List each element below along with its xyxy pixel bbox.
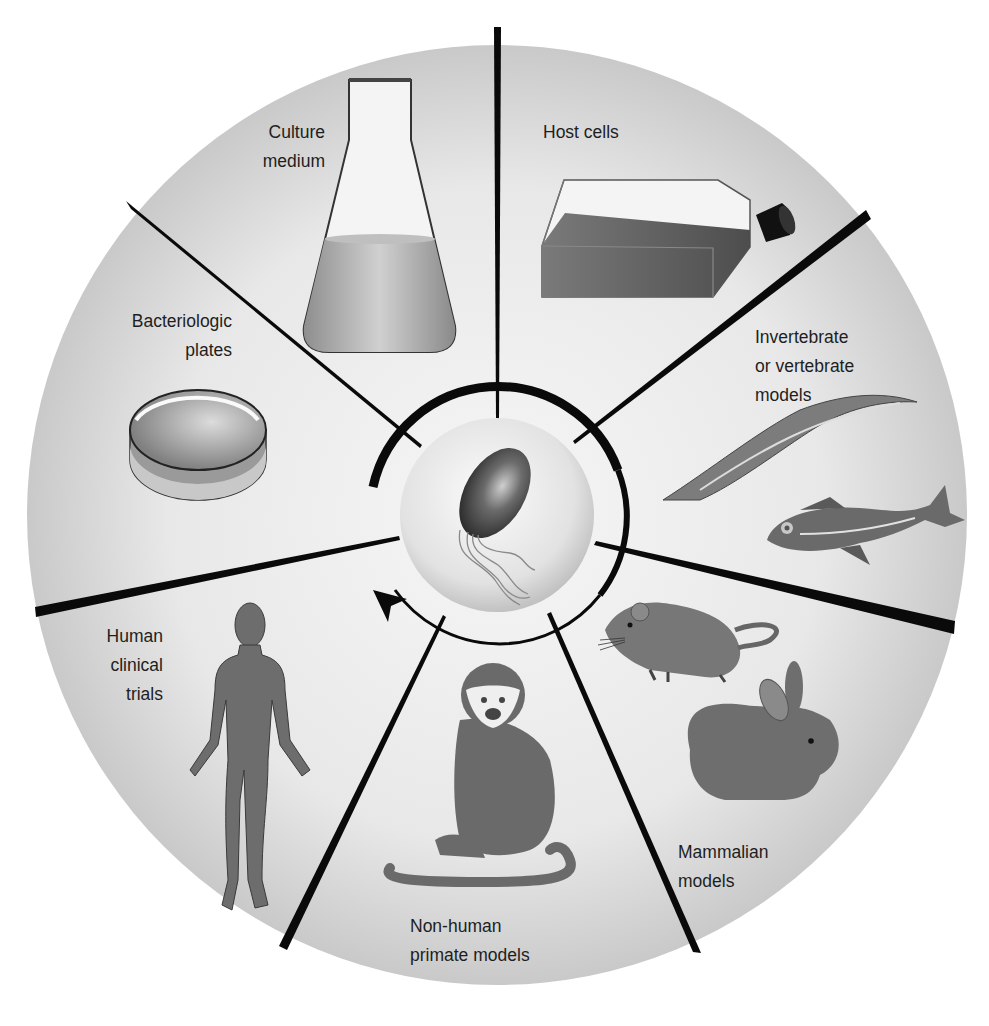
- label-line: clinical: [80, 651, 163, 680]
- label-line: Host cells: [543, 118, 619, 147]
- pathogen-model-wheel-diagram: Culture medium Host cells Invertebrate o…: [0, 0, 989, 1026]
- label-host-cells: Host cells: [543, 118, 619, 147]
- petri-dish-icon: [130, 390, 266, 500]
- label-human-clinical-trials: Human clinical trials: [80, 622, 163, 709]
- label-line: medium: [240, 147, 325, 176]
- label-line: models: [755, 381, 854, 410]
- label-line: Human: [80, 622, 163, 651]
- label-mammalian-models: Mammalian models: [678, 838, 768, 896]
- label-line: or vertebrate: [755, 352, 854, 381]
- label-line: plates: [110, 336, 232, 365]
- label-line: Non-human: [410, 912, 530, 941]
- label-bacteriologic-plates: Bacteriologic plates: [110, 307, 232, 365]
- center-bacterium-sphere: [400, 418, 594, 612]
- label-non-human-primate-models: Non-human primate models: [410, 912, 530, 970]
- diagram-canvas: [0, 0, 989, 1026]
- label-line: primate models: [410, 941, 530, 970]
- label-line: Mammalian: [678, 838, 768, 867]
- label-line: Bacteriologic: [110, 307, 232, 336]
- label-line: trials: [80, 680, 163, 709]
- label-invertebrate-vertebrate-models: Invertebrate or vertebrate models: [755, 323, 854, 410]
- label-line: models: [678, 867, 768, 896]
- label-line: Culture: [240, 118, 325, 147]
- label-culture-medium: Culture medium: [240, 118, 325, 176]
- label-line: Invertebrate: [755, 323, 854, 352]
